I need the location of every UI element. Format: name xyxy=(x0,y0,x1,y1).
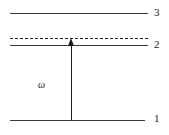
level-line-2 xyxy=(10,45,148,46)
level-label-1: 1 xyxy=(154,113,160,124)
virtual-level-dashed-line xyxy=(10,38,148,39)
omega-transition-label: ω xyxy=(38,80,45,90)
energy-level-diagram: 3 2 1 ω xyxy=(0,0,169,135)
level-line-1 xyxy=(10,120,145,121)
level-line-3 xyxy=(10,13,148,14)
omega-transition-arrow-head-icon xyxy=(68,38,74,46)
level-label-3: 3 xyxy=(154,7,160,18)
level-label-2: 2 xyxy=(154,39,160,50)
omega-transition-arrow-shaft xyxy=(71,44,72,120)
